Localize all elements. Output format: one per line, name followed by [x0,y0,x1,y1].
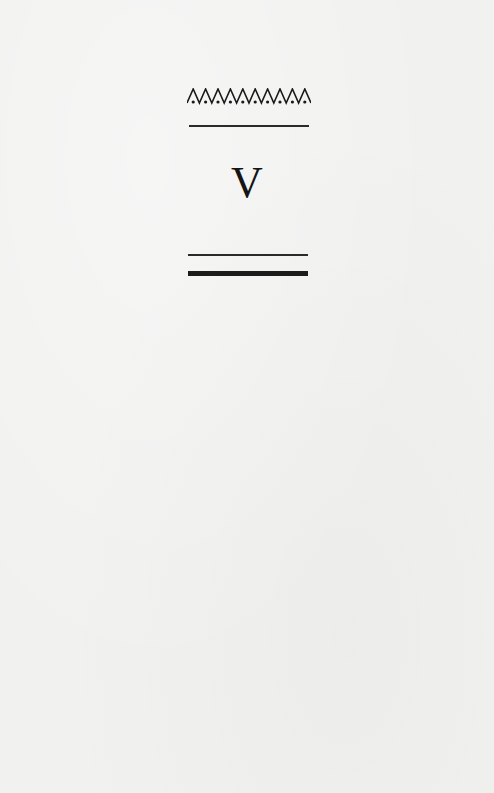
top-divider-rule [189,125,309,127]
bottom-thin-divider-rule [188,254,308,256]
bottom-thick-divider-rule [188,271,308,276]
chevron-dot-ornament-icon [187,88,311,106]
chapter-number: V [0,158,494,208]
book-page: V [0,0,494,793]
